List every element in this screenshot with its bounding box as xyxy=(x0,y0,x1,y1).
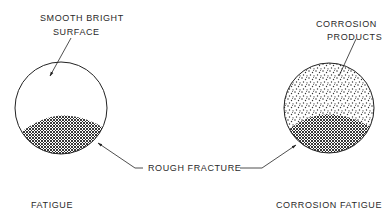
fatigue-specimen xyxy=(14,62,110,160)
rough-fracture-leader-right-arrow xyxy=(240,145,296,168)
fatigue-caption: FATIGUE xyxy=(31,200,73,210)
corrosion-fatigue-caption: CORROSION FATIGUE xyxy=(276,200,382,210)
smooth-bright-label-line2: SURFACE xyxy=(53,27,100,37)
smooth-surface-leader-arrow xyxy=(50,38,71,76)
corrosion-fatigue-specimen xyxy=(280,60,380,160)
smooth-bright-label-line1: SMOOTH BRIGHT xyxy=(40,13,124,23)
rough-fracture-leader-left-arrow xyxy=(98,143,143,168)
fracture-surface-diagram: SMOOTH BRIGHT SURFACE CORROSION PRODUCTS… xyxy=(0,0,386,217)
rough-fracture-label: ROUGH FRACTURE xyxy=(148,163,241,173)
corrosion-products-label-line1: CORROSION xyxy=(316,19,377,29)
corrosion-products-label-line2: PRODUCTS xyxy=(327,32,382,42)
